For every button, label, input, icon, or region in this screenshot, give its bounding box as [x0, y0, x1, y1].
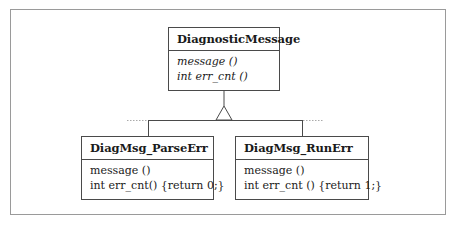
class-box-diagmsg-runerr: DiagMsg_RunErr message () int err_cnt ()… [235, 136, 369, 200]
operations-list: message () int err_cnt () [169, 51, 279, 84]
operation-err-cnt: int err_cnt () {return 1;} [244, 178, 368, 193]
class-name: DiagMsg_RunErr [236, 137, 368, 160]
class-name: DiagnosticMessage [169, 28, 279, 51]
operation-message: message () [177, 54, 279, 69]
operations-list: message () int err_cnt () {return 1;} [236, 160, 368, 193]
operation-err-cnt: int err_cnt () [177, 69, 279, 84]
operation-message: message () [90, 163, 213, 178]
class-name: DiagMsg_ParseErr [82, 137, 213, 160]
operation-message: message () [244, 163, 368, 178]
generalization-triangle-icon [216, 106, 232, 120]
operations-list: message () int err_cnt() {return 0;} [82, 160, 213, 193]
class-box-diagmsg-parseerr: DiagMsg_ParseErr message () int err_cnt(… [81, 136, 214, 200]
operation-err-cnt: int err_cnt() {return 0;} [90, 178, 213, 193]
class-box-diagnosticmessage: DiagnosticMessage message () int err_cnt… [168, 27, 280, 91]
